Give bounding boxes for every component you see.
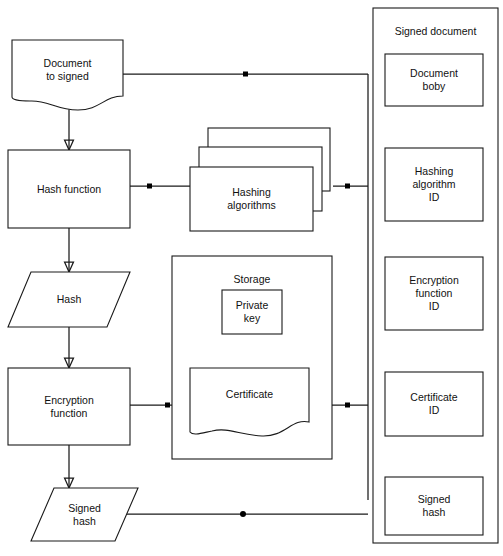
node-certificate [190,368,309,436]
node-document-to-signed [12,40,123,110]
diagram-canvas [0,0,503,556]
marker-square-4 [165,403,170,408]
signature-flow-diagram: Document to signed Hash function Hash En… [0,0,503,556]
node-hash-function [8,150,130,228]
node-private-key [222,290,282,334]
marker-square-2 [147,184,152,189]
node-encryption-function [8,368,130,445]
node-hash [8,272,130,327]
node-signed-hash-left [31,488,138,541]
panel-item-box-1 [385,148,483,221]
marker-square-3 [345,184,350,189]
marker-round-1 [240,511,246,517]
marker-square-1 [243,72,248,77]
node-hashing-algorithms [190,167,313,231]
marker-square-5 [345,403,350,408]
panel-item-box-3 [385,372,483,436]
panel-item-box-2 [385,257,483,330]
panel-item-box-4 [385,477,483,535]
panel-item-box-0 [385,54,483,106]
